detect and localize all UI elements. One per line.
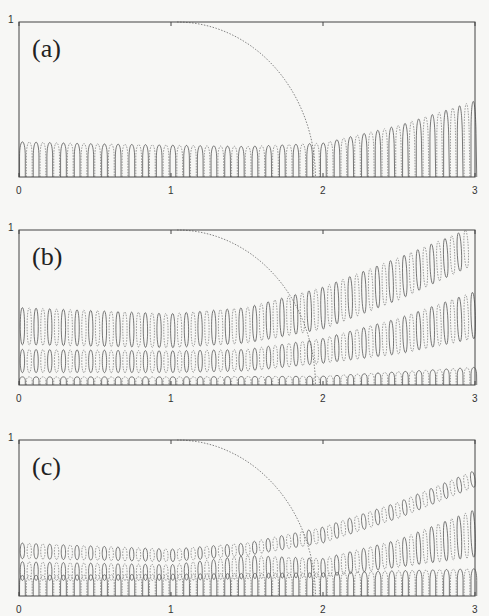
mode-lobe [95, 563, 99, 580]
mode-lobe [348, 552, 352, 574]
mode-lobe [423, 117, 429, 177]
mode-lobe [95, 546, 99, 560]
mode-lobe [136, 548, 140, 561]
mode-lobe [409, 535, 414, 566]
mode-lobe [102, 575, 108, 596]
mode-lobe [457, 477, 462, 493]
mode-lobe [130, 564, 134, 580]
mode-lobe [252, 573, 258, 596]
mode-lobe [204, 377, 210, 385]
mode-lobe [136, 312, 140, 347]
mode-lobe [177, 351, 181, 373]
mode-lobe [307, 144, 313, 177]
mode-lobe [375, 545, 379, 570]
x-tick-label-1: 1 [168, 185, 174, 196]
mode-lobe [232, 377, 238, 385]
mode-lobe [293, 144, 299, 177]
mode-lobe [437, 304, 441, 345]
mode-lobe [382, 129, 388, 177]
mode-lobe [409, 252, 414, 293]
mode-lobe [464, 295, 469, 340]
mode-lobe [89, 310, 93, 346]
mode-lobe [225, 377, 231, 385]
axis-ticks [19, 22, 475, 177]
mode-lobe [314, 339, 318, 364]
mode-lobe [40, 377, 46, 385]
mode-lobe [409, 371, 415, 385]
mode-lobe [218, 310, 222, 345]
mode-lobes [20, 472, 477, 596]
mode-lobe [444, 569, 450, 596]
mode-lobe [89, 546, 93, 560]
mode-lobe [403, 371, 409, 385]
mode-lobe [245, 377, 251, 385]
mode-lobe [67, 143, 73, 177]
mode-lobe [443, 483, 448, 499]
mode-lobe [218, 377, 224, 385]
mode-lobe [33, 575, 39, 596]
mode-lobe [273, 300, 277, 338]
mode-lobe [389, 372, 395, 385]
mode-lobe [238, 574, 244, 596]
mode-lobe [225, 350, 229, 372]
mode-lobe [41, 350, 45, 373]
y-tick-label: 1 [8, 432, 14, 443]
mode-lobe [34, 308, 38, 345]
mode-lobe [287, 534, 291, 548]
mode-lobe [177, 564, 181, 580]
mode-lobe [225, 309, 229, 344]
mode-lobe [150, 564, 154, 580]
mode-lobe [27, 308, 31, 345]
mode-lobe [396, 126, 402, 177]
mode-lobe [416, 570, 422, 596]
mode-lobe [348, 518, 353, 534]
mode-lobe [321, 287, 325, 329]
mode-lobe [40, 575, 46, 596]
mode-lobe [362, 548, 366, 571]
mode-lobe [102, 311, 106, 346]
mode-lobe [300, 558, 304, 578]
mode-lobe [382, 373, 388, 385]
mode-lobe [457, 569, 463, 596]
mode-lobe [41, 562, 45, 580]
mode-lobe [33, 142, 39, 177]
mode-lobe [464, 104, 470, 177]
mode-lobe [75, 310, 79, 346]
mode-lobe [252, 376, 258, 385]
mode-lobe [307, 573, 313, 596]
mode-lobe [409, 497, 414, 513]
mode-lobe [109, 350, 113, 372]
mode-lobe [430, 307, 434, 347]
mode-lobe [259, 376, 265, 385]
mode-lobe [184, 351, 188, 373]
mode-lobe [348, 331, 352, 360]
mode-lobe [48, 350, 52, 373]
mode-lobe [164, 351, 168, 373]
mode-lobe [450, 108, 456, 177]
mode-lobe [150, 377, 156, 385]
panel-label: (b) [32, 242, 62, 271]
mode-lobe [20, 308, 24, 345]
mode-lobe [464, 230, 469, 268]
mode-lobe [102, 546, 106, 560]
mode-lobe [293, 573, 299, 596]
mode-lobe [355, 516, 360, 532]
mode-lobe [95, 575, 101, 596]
mode-lobe [246, 307, 250, 343]
mode-lobe [368, 512, 373, 528]
mode-lobe [437, 369, 443, 385]
mode-lobe [450, 519, 455, 560]
mode-lobe [423, 529, 428, 563]
mode-lobe [123, 350, 127, 372]
mode-lobe [341, 572, 347, 596]
mode-lobe [362, 572, 368, 596]
mode-lobe [150, 313, 154, 347]
mode-lobe [109, 564, 113, 581]
mode-lobe [191, 547, 195, 559]
mode-lobe [450, 300, 455, 343]
mode-lobe [232, 544, 236, 556]
mode-lobe [61, 350, 65, 373]
mode-lobe [184, 377, 190, 385]
mode-lobe [382, 543, 386, 569]
mode-lobe [156, 574, 162, 596]
